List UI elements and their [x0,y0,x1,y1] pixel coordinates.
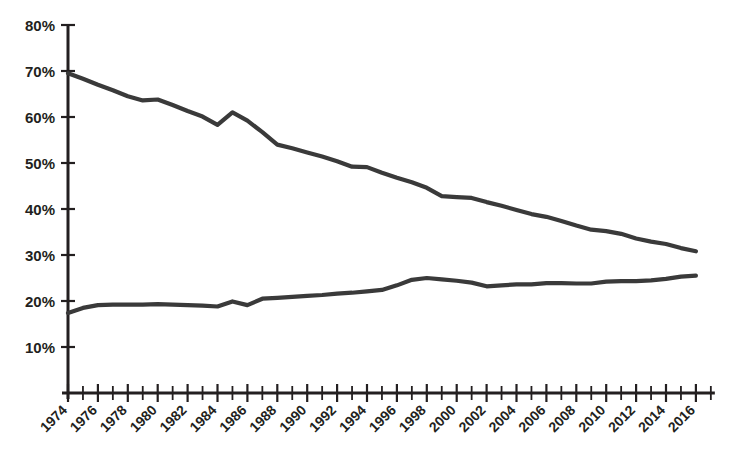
y-tick-label: 70% [25,63,55,80]
y-tick-label: 50% [25,155,55,172]
x-tick-label: 1988 [246,402,279,435]
x-tick-label: 1980 [126,402,159,435]
x-tick-label: 2014 [635,402,668,435]
x-tick-label: 2012 [605,402,638,435]
line-chart: 10%20%30%40%50%60%70%80% 197419761978198… [0,0,731,459]
x-tick-label: 2002 [455,402,488,435]
y-tick-label: 60% [25,109,55,126]
x-tick-label: 2004 [485,402,518,435]
x-tick-label: 1978 [97,402,130,435]
chart-canvas: 10%20%30%40%50%60%70%80% 197419761978198… [0,0,731,459]
x-tick-label: 1992 [306,402,339,435]
x-tick-label: 2006 [515,402,548,435]
x-tick-label: 2010 [575,402,608,435]
x-tick-label: 1982 [156,402,189,435]
x-tick-label: 1976 [67,402,100,435]
x-tick-label: 1990 [276,402,309,435]
x-tick-label: 2016 [665,402,698,435]
data-series-group [68,73,696,313]
x-tick-label: 1998 [396,402,429,435]
y-tick-label: 20% [25,293,55,310]
y-tick-label: 10% [25,339,55,356]
x-tick-label: 2000 [425,402,458,435]
y-tick-label: 80% [25,17,55,34]
x-tick-label: 1984 [186,402,219,435]
x-tick-label: 1974 [37,402,70,435]
x-tick-label: 1996 [366,402,399,435]
series-line-2 [68,276,696,313]
x-tick-label: 2008 [545,402,578,435]
x-axis-tick-labels: 1974197619781980198219841986198819901992… [37,402,698,435]
series-line-1 [68,73,696,251]
y-tick-label: 40% [25,201,55,218]
y-tick-label: 30% [25,247,55,264]
x-tick-label: 1986 [216,402,249,435]
x-axis [62,384,715,402]
x-tick-label: 1994 [336,402,369,435]
